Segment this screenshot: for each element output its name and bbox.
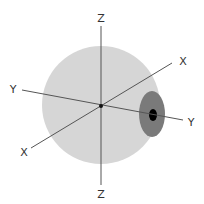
x-lower-left-label: X <box>20 146 28 159</box>
z-bottom-label: Z <box>97 188 105 201</box>
origin-point <box>99 104 103 108</box>
y-left-label: Y <box>9 83 17 96</box>
z-top-label: Z <box>97 12 105 25</box>
y-right-label: Y <box>187 116 195 129</box>
diagram-svg: Z Z Y Y X X <box>0 0 204 204</box>
eye-axes-diagram: Z Z Y Y X X <box>0 0 204 204</box>
x-upper-right-label: X <box>179 55 187 68</box>
